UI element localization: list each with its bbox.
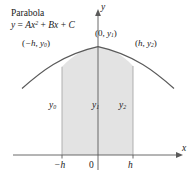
ordinate-y1-subscript: 1 [96, 104, 99, 110]
x-tick-label-neg-h: −h [54, 160, 65, 171]
ordinate-label-y0: y0 [49, 100, 56, 111]
ordinate-label-y1: y1 [92, 100, 99, 111]
equation-plus-2: + [61, 20, 66, 30]
point-label-mid: (0, y1) [95, 28, 117, 39]
ordinate-y2-subscript: 2 [123, 104, 126, 110]
equation-term-a-exponent: 2 [35, 20, 38, 26]
point-left-x: −h [25, 38, 36, 48]
point-right-close-paren: ) [154, 38, 157, 48]
point-label-left: (−h, y0) [22, 38, 50, 49]
x-tick-label-pos-h: h [128, 160, 133, 171]
x-tick-label-zero: 0 [89, 160, 94, 171]
figure-title-block: Parabola y = Ax2 + Bx + C [11, 8, 75, 31]
point-mid-close-paren: ) [114, 28, 117, 38]
equation-equals: = [18, 20, 23, 30]
point-left-close-paren: ) [47, 38, 50, 48]
equation-plus-1: + [41, 20, 46, 30]
figure-title-name: Parabola [11, 8, 75, 19]
figure-title-equation: y = Ax2 + Bx + C [11, 20, 75, 31]
parabola-simpsons-rule-figure: Parabola y = Ax2 + Bx + C (−h, y0) (0, y… [0, 0, 193, 184]
leader-line-left-point [57, 49, 62, 67]
ordinate-label-y2: y2 [119, 100, 126, 111]
ordinate-y0-subscript: 0 [53, 104, 56, 110]
equation-term-b-var: x [54, 20, 58, 30]
equation-lhs: y [11, 20, 15, 30]
y-axis-label: y [101, 2, 105, 13]
equation-constant: C [68, 20, 74, 30]
point-label-right: (h, y2) [135, 38, 157, 49]
x-axis-label: x [182, 143, 186, 154]
